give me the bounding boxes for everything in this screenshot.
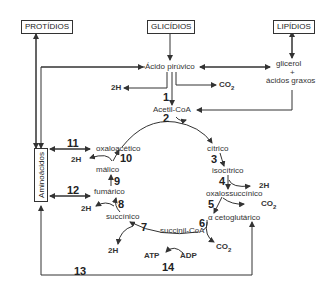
h2-step4: 2H: [259, 182, 269, 190]
step-1: 1: [163, 92, 169, 103]
acido-piruvico: Ácido pirúvico: [145, 63, 195, 71]
glicerol: glicerol: [276, 60, 301, 68]
step-12: 12: [67, 185, 79, 196]
oxaloacetico: oxaloacético: [96, 145, 140, 153]
step-14: 14: [162, 262, 174, 273]
protidios-box: PROTÍDIOS: [21, 20, 73, 34]
adp: ADP: [180, 252, 197, 260]
aminoacidos-box: Aminoácidos: [34, 148, 48, 202]
acetil-coa: Acetil-CoA: [153, 106, 191, 114]
step-13: 13: [74, 266, 86, 277]
step-6: 6: [199, 218, 205, 229]
atp: ATP: [144, 252, 159, 260]
lipidios-box: LIPÍDIOS: [273, 20, 315, 34]
pathway-arrows: [0, 0, 330, 292]
isocitrico: isocítrico: [212, 167, 244, 175]
co2-step1: CO2: [219, 81, 234, 91]
step-9: 9: [114, 176, 120, 187]
co2-step6: CO2: [216, 243, 231, 253]
co2-step5: CO2: [261, 200, 276, 210]
citrico: cítrico: [207, 145, 228, 153]
step-11: 11: [67, 138, 79, 149]
oxalossuccinico: oxalossuccínico: [206, 190, 262, 198]
fumarico: fumárico: [94, 188, 125, 196]
h2-step10: 2H: [71, 156, 81, 164]
glicidios-box: GLICÍDIOS: [147, 20, 195, 34]
malico: málico: [96, 166, 119, 174]
step-10: 10: [120, 153, 132, 164]
h2-step7: 2H: [108, 247, 118, 255]
step-7: 7: [141, 222, 147, 233]
step-3: 3: [211, 154, 217, 165]
h2-step8: 2H: [81, 205, 91, 213]
h2-step1: 2H: [111, 84, 121, 92]
succinil-coa: succinil-CoA: [160, 227, 204, 235]
aminoacidos-label: Aminoácidos: [37, 152, 46, 198]
succinico: succínico: [106, 213, 139, 221]
cetoglutarico: α cetoglutárico: [208, 214, 260, 222]
step-5: 5: [208, 199, 214, 210]
step-4: 4: [219, 176, 225, 187]
acidos-graxos: ácidos graxos: [266, 77, 315, 85]
step-8: 8: [118, 199, 124, 210]
step-2: 2: [163, 113, 169, 124]
